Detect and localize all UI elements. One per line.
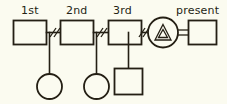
partner-square-3[interactable] bbox=[109, 21, 142, 45]
index-person-group bbox=[148, 18, 178, 48]
index-person-circle[interactable] bbox=[148, 18, 178, 48]
child-circle-2[interactable] bbox=[84, 74, 109, 99]
union-label-present: present bbox=[176, 4, 220, 17]
union-label-first: 1st bbox=[21, 4, 39, 17]
union-label-second: 2nd bbox=[66, 4, 88, 17]
union-group-present bbox=[178, 21, 217, 45]
union-group-1 bbox=[14, 21, 64, 100]
child-circle-1[interactable] bbox=[37, 74, 62, 99]
union-label-third: 3rd bbox=[113, 4, 132, 17]
child-square-3[interactable] bbox=[115, 69, 143, 95]
union-group-3 bbox=[109, 21, 151, 95]
partner-square-2[interactable] bbox=[61, 21, 94, 45]
genogram-canvas: 1st 2nd 3rd present bbox=[0, 0, 227, 104]
union-group-2 bbox=[61, 21, 111, 100]
partner-square-present[interactable] bbox=[189, 21, 217, 45]
partner-square-1[interactable] bbox=[14, 21, 47, 45]
genogram-diagram: 1st 2nd 3rd present bbox=[0, 0, 227, 104]
